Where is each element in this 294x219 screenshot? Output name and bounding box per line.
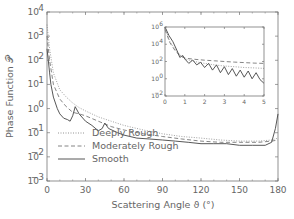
y-tick-exponent: 2 bbox=[159, 55, 163, 62]
y-tick-exponent: −1 bbox=[31, 123, 44, 133]
y-tick-exponent: −2 bbox=[154, 89, 163, 96]
y-tick-label: 10 bbox=[151, 23, 159, 30]
phase-function-chart: 030609012015018010−310−210−1100101102103… bbox=[0, 0, 294, 219]
legend-label-moderately-rough: Moderately Rough bbox=[92, 140, 179, 151]
y-tick-exponent: 1 bbox=[38, 75, 44, 85]
y-tick-exponent: 0 bbox=[159, 72, 163, 79]
y-tick-exponent: 6 bbox=[159, 20, 163, 27]
x-tick-label: 60 bbox=[118, 185, 130, 195]
y-tick-exponent: 4 bbox=[38, 3, 44, 13]
x-tick-label: 180 bbox=[269, 185, 286, 195]
y-tick-exponent: 3 bbox=[38, 27, 44, 37]
y-tick-exponent: 4 bbox=[159, 37, 163, 44]
x-tick-label: 0 bbox=[163, 98, 167, 105]
legend-label-deeply-rough: Deeply Rough bbox=[92, 127, 158, 138]
x-tick-label: 0 bbox=[44, 185, 50, 195]
x-tick-label: 30 bbox=[80, 185, 92, 195]
legend: Deeply Rough Moderately Rough Smooth bbox=[58, 127, 179, 164]
y-tick-exponent: 2 bbox=[38, 51, 44, 61]
x-tick-label: 150 bbox=[231, 185, 248, 195]
legend-label-smooth: Smooth bbox=[92, 153, 129, 164]
x-axis-title: Scattering Angle ϑ (°) bbox=[111, 199, 214, 210]
y-tick-label: 10 bbox=[151, 75, 159, 82]
x-tick-label: 2 bbox=[203, 98, 207, 105]
x-tick-label: 4 bbox=[242, 98, 246, 105]
y-tick-exponent: −2 bbox=[31, 147, 44, 157]
x-tick-label: 3 bbox=[222, 98, 226, 105]
x-tick-label: 1 bbox=[183, 98, 187, 105]
y-tick-label: 10 bbox=[151, 40, 159, 47]
y-axis-title: Phase Function 𝒫 bbox=[4, 54, 15, 138]
y-tick-exponent: −3 bbox=[31, 172, 44, 182]
x-tick-label: 90 bbox=[157, 185, 169, 195]
inset-plot-background bbox=[165, 27, 264, 96]
y-tick-label: 10 bbox=[151, 58, 159, 65]
y-tick-exponent: 0 bbox=[38, 99, 44, 109]
x-tick-label: 5 bbox=[262, 98, 266, 105]
x-tick-label: 120 bbox=[192, 185, 209, 195]
